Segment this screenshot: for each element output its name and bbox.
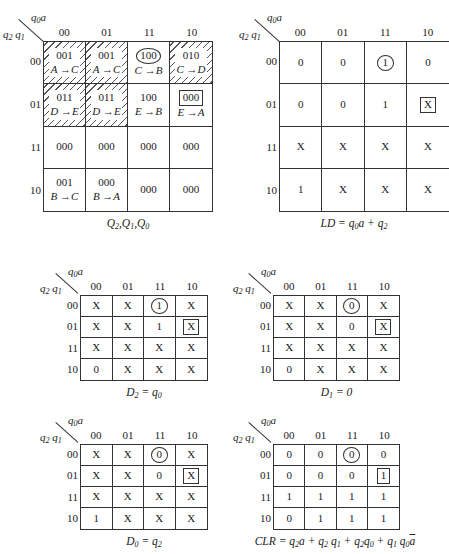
- column-label: 00: [273, 429, 305, 441]
- kmap-cell: 1: [274, 487, 305, 508]
- row-label: 10: [25, 184, 41, 196]
- kmap-cell: X: [176, 487, 208, 508]
- cell-value: 1: [381, 490, 387, 504]
- cell-value: 0: [286, 512, 292, 526]
- row-label: 11: [255, 491, 271, 503]
- kmap-cell: X: [113, 359, 145, 380]
- kmap-cell: 0: [337, 466, 368, 487]
- kmap-cell: 1: [368, 487, 399, 508]
- column-label: 11: [364, 26, 407, 38]
- cell-value: 000: [56, 140, 73, 154]
- state-transition: B →C: [51, 190, 79, 204]
- boxed-value: X: [183, 319, 199, 335]
- kmap-cell: 1: [144, 296, 176, 317]
- row-label: 11: [255, 342, 271, 354]
- kmap-cell: 100C →B: [128, 42, 170, 84]
- cell-value: 0: [349, 320, 355, 334]
- circled-value: 1: [377, 55, 394, 71]
- kmap-cell: 0: [368, 445, 399, 466]
- cell-value: X: [92, 490, 100, 504]
- row-label: 00: [25, 55, 41, 67]
- cell-value: X: [124, 299, 132, 313]
- cell-value: X: [424, 140, 432, 154]
- kmap-cell: 011D →E: [44, 84, 86, 126]
- column-label: 11: [144, 280, 176, 292]
- cell-value: 0: [286, 469, 292, 483]
- kmap-caption: LD = q0a + q2: [279, 217, 429, 231]
- state-transition: E →A: [177, 106, 204, 120]
- column-variable-label: q0a: [267, 11, 282, 25]
- kmap-cell: X: [305, 296, 336, 317]
- kmap-cell: X: [280, 127, 322, 169]
- kmap-cell: X: [144, 338, 176, 359]
- kmap-cell: X: [113, 487, 145, 508]
- column-variable-label: q0a: [31, 11, 46, 25]
- row-label: 10: [62, 512, 78, 524]
- kmap-cell: 000: [86, 127, 128, 169]
- cell-value: 1: [349, 512, 355, 526]
- kmap-cell: X: [274, 338, 305, 359]
- row-variable-label: q2 q1: [233, 431, 255, 445]
- row-label: 00: [62, 448, 78, 460]
- circled-value: 0: [151, 447, 168, 463]
- kmap-cell: 1: [144, 317, 176, 338]
- kmap-cell: 1: [365, 84, 407, 126]
- row-variable-label: q2 q1: [3, 28, 25, 42]
- kmap-grid: 001A →C001A →C100C →B010C →D011D →E011D …: [43, 41, 213, 212]
- circled-value: 0: [343, 298, 360, 314]
- kmap-cell: 100E →B: [128, 84, 170, 126]
- cell-value: X: [155, 512, 163, 526]
- row-label: 10: [255, 512, 271, 524]
- cell-value: 010: [183, 49, 200, 63]
- row-variable-label: q2 q1: [239, 28, 261, 42]
- cell-value: 000: [140, 140, 157, 154]
- cell-value: X: [348, 363, 356, 377]
- kmap-grid: XX0XXX0XXXXX0XXX: [273, 295, 400, 381]
- cell-value: 0: [94, 363, 100, 377]
- kmap-cell: X: [368, 338, 399, 359]
- kmap-cell: 0: [274, 445, 305, 466]
- cell-value: 000: [183, 140, 200, 154]
- kmap-cell: X: [274, 296, 305, 317]
- cell-value: X: [379, 299, 387, 313]
- cell-value: 0: [340, 98, 346, 112]
- kmap-cell: X: [305, 359, 336, 380]
- boxed-value: X: [183, 468, 199, 484]
- kmap-cell: 0: [322, 42, 364, 84]
- kmap-cell: X: [113, 445, 145, 466]
- column-label: 00: [80, 429, 112, 441]
- cell-value: X: [316, 320, 324, 334]
- cell-value: 0: [286, 363, 292, 377]
- kmap-cell: 000E →A: [170, 84, 212, 126]
- cell-value: 1: [318, 490, 324, 504]
- column-label: 00: [273, 280, 305, 292]
- kmap-cell: X: [305, 338, 336, 359]
- row-label: 11: [62, 491, 78, 503]
- boxed-value: X: [375, 319, 391, 335]
- cell-value: X: [124, 320, 132, 334]
- cell-value: 1: [349, 490, 355, 504]
- kmap-caption: CLR = q2a + q2 q1 + q2q0 + q1 q0a: [235, 535, 435, 549]
- kmap-grid: 0000000111110111: [273, 444, 400, 530]
- column-label: 01: [86, 26, 129, 38]
- kmap-cell: 001A →C: [44, 42, 86, 84]
- kmap-cell: 1: [368, 466, 399, 487]
- kmap-cell: 0: [322, 84, 364, 126]
- column-variable-label: q0a: [68, 265, 83, 279]
- column-label: 10: [176, 429, 208, 441]
- circled-value: 1: [151, 298, 168, 314]
- column-label: 11: [128, 26, 171, 38]
- kmap-cell: 000: [170, 169, 212, 211]
- kmap-cell: 010C →D: [170, 42, 212, 84]
- column-label: 00: [279, 26, 322, 38]
- kmap-cell: X: [176, 508, 208, 529]
- kmap-grid: XX1XXX1XXXXX0XXX: [80, 295, 208, 381]
- kmap-cell: X: [365, 169, 407, 211]
- kmap-cell: X: [322, 169, 364, 211]
- column-label: 10: [368, 280, 400, 292]
- kmap-cell: 0: [337, 317, 368, 338]
- state-transition: E →B: [135, 105, 162, 119]
- kmap-cell: 0: [305, 445, 336, 466]
- kmap-cell: X: [407, 84, 449, 126]
- cell-value: 011: [98, 91, 114, 105]
